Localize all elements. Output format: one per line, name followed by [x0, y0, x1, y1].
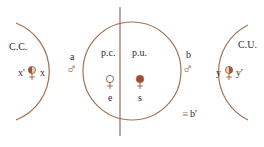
label-s: s: [138, 93, 142, 103]
male-icon-b: ♂: [182, 62, 193, 77]
label-pc: p.c.: [101, 48, 115, 58]
half-filled-female-icon-right: [225, 66, 232, 80]
label-y-prime: y': [236, 68, 243, 78]
hollow-female-icon: [106, 75, 113, 89]
label-b: b: [186, 50, 191, 60]
half-filled-female-icon-left: [28, 66, 35, 80]
filled-female-icon: [136, 75, 144, 89]
middle-cell-circle: [83, 22, 181, 120]
triple-bar-icon: ≡: [182, 109, 188, 119]
label-e: e: [108, 93, 112, 103]
label-x: x: [40, 68, 45, 78]
label-x-prime: x': [18, 68, 25, 78]
label-cu: C.U.: [238, 40, 257, 50]
label-y: y: [216, 68, 221, 78]
label-cc: C.C.: [9, 42, 27, 52]
label-b-prime: b': [190, 109, 197, 119]
label-pu: p.u.: [132, 48, 147, 58]
male-icon-a: ♂: [66, 62, 77, 77]
